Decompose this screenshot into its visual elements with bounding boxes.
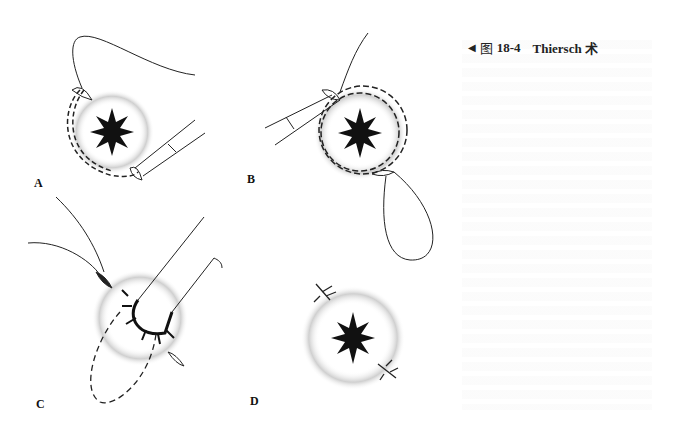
panel-label-c: C	[36, 397, 45, 412]
panel-label-d: D	[250, 394, 259, 409]
panel-a-drawing	[68, 36, 205, 180]
figure-page: ◀ 图 18-4 Thiersch 术	[0, 0, 676, 431]
surgical-illustration	[0, 0, 676, 431]
panel-b-drawing	[265, 33, 433, 260]
panel-label-b: B	[247, 172, 255, 187]
panel-c-drawing	[28, 197, 222, 403]
panel-d-drawing	[301, 284, 405, 390]
panel-label-a: A	[34, 176, 43, 191]
